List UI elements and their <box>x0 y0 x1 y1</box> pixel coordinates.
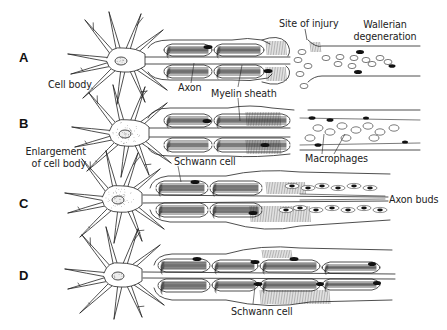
remyelin-hatch <box>279 290 280 304</box>
nucleus-dot <box>122 62 123 63</box>
myelin-lamella <box>263 284 316 290</box>
cytoplasm-dot <box>127 200 128 201</box>
myelin-debris <box>294 57 302 62</box>
nucleus-dot <box>116 201 117 202</box>
cytoplasm-dot <box>134 131 135 132</box>
myelin-debris <box>336 54 344 59</box>
myelin-leader <box>238 98 240 121</box>
axon-bud <box>300 194 385 196</box>
nucleus-dot <box>122 136 123 137</box>
schwann-nucleus <box>283 209 289 212</box>
cytoplasm-dot <box>130 129 131 130</box>
dendrite <box>130 282 142 317</box>
regen-hatch <box>276 182 277 194</box>
dendrite <box>131 283 164 305</box>
remyelin-hatch <box>278 290 279 304</box>
regen-hatch <box>266 206 267 222</box>
remyelin-hatch <box>260 290 261 304</box>
dendrite <box>133 67 145 102</box>
regen-hatch <box>263 206 264 222</box>
cytoplasm-dot <box>134 140 135 141</box>
macrophage-leader <box>322 134 324 154</box>
cytoplasm-dot <box>119 194 120 195</box>
distal-hatch <box>310 42 311 52</box>
dendrite <box>89 93 118 125</box>
label-site-of-injury: Site of injury <box>279 18 338 29</box>
regen-hatch <box>308 206 309 222</box>
cytoplasm-dot <box>129 128 130 129</box>
cytoplasm-dot <box>121 141 122 142</box>
cytoplasm-dot <box>128 202 129 203</box>
cytoplasm-dot <box>125 138 126 139</box>
stump-hatch <box>282 67 283 81</box>
nucleus-dot <box>122 276 123 277</box>
schwann-nucleus <box>305 187 311 190</box>
dendrite <box>126 153 138 191</box>
cytoplasm-dot <box>108 201 109 202</box>
schwann-nucleus <box>315 143 322 147</box>
label-enlargement: Enlargement <box>0 146 86 157</box>
remyelin-hatch <box>290 290 291 304</box>
nucleus-dot <box>114 197 115 198</box>
nucleus-dot <box>123 60 124 61</box>
nucleus-dot <box>128 135 129 136</box>
remyelin-hatch <box>292 290 293 304</box>
cell-nucleus <box>112 196 124 204</box>
remyelin-hatch <box>306 290 307 304</box>
schwann-cell-leader <box>178 166 181 182</box>
stump-hatch <box>284 41 285 55</box>
distal-hatch <box>320 42 321 52</box>
schwann-nucleus <box>377 209 383 212</box>
remyelin-hatch <box>263 290 264 304</box>
dendrite <box>80 285 114 313</box>
cytoplasm-dot <box>116 188 117 189</box>
cytoplasm-dot <box>113 205 114 206</box>
regen-hatch <box>285 182 286 194</box>
regen-hatch <box>271 206 272 222</box>
schwann-nucleus <box>335 187 341 190</box>
myelin-lamella <box>215 287 254 293</box>
myelin-debris <box>300 83 308 88</box>
stump-hatch <box>279 67 280 81</box>
macrophage <box>325 129 335 135</box>
cytoplasm-dot <box>113 193 114 194</box>
cytoplasm-dot <box>109 200 110 201</box>
stage-c-fiber <box>143 166 390 229</box>
dendrite <box>89 93 114 128</box>
stage-d-fiber <box>143 247 395 306</box>
dendrite <box>129 87 145 123</box>
dendrite <box>65 269 108 273</box>
nucleus-dot <box>114 276 115 277</box>
remyelin-hatch <box>298 290 299 304</box>
myelin-lamella <box>159 212 204 218</box>
cytoplasm-dot <box>124 204 125 205</box>
cytoplasm-dot <box>128 139 129 140</box>
schwann-nucleus <box>203 119 212 123</box>
cytoplasm-dot <box>131 132 132 133</box>
remyelin-hatch <box>284 250 285 258</box>
cytoplasm-dot <box>112 196 113 197</box>
dendrite <box>121 144 125 177</box>
distal-bottom <box>308 76 420 82</box>
label-myelin-sheath: Myelin sheath <box>211 88 277 99</box>
dendrite <box>80 206 110 237</box>
cytoplasm-dot <box>122 196 123 197</box>
cytoplasm-dot <box>124 197 125 198</box>
schwann-band <box>300 118 420 120</box>
schwann-nucleus <box>351 185 357 188</box>
nucleus-dot <box>121 202 122 203</box>
macrophage <box>351 127 361 133</box>
dendrite <box>122 229 138 266</box>
remyelin-hatch <box>268 250 269 258</box>
myelin-lamella <box>167 49 208 55</box>
cytoplasm-dot <box>135 141 136 142</box>
regen-hatch <box>272 182 273 194</box>
nucleus-dot <box>115 198 116 199</box>
neuron-a <box>68 12 167 104</box>
macrophage <box>337 123 347 129</box>
cytoplasm-dot <box>120 123 121 124</box>
cytoplasm-dot <box>125 195 126 196</box>
remyelin-hatch <box>282 290 283 304</box>
stump-hatch <box>277 67 278 81</box>
cytoplasm-dot <box>127 125 128 126</box>
